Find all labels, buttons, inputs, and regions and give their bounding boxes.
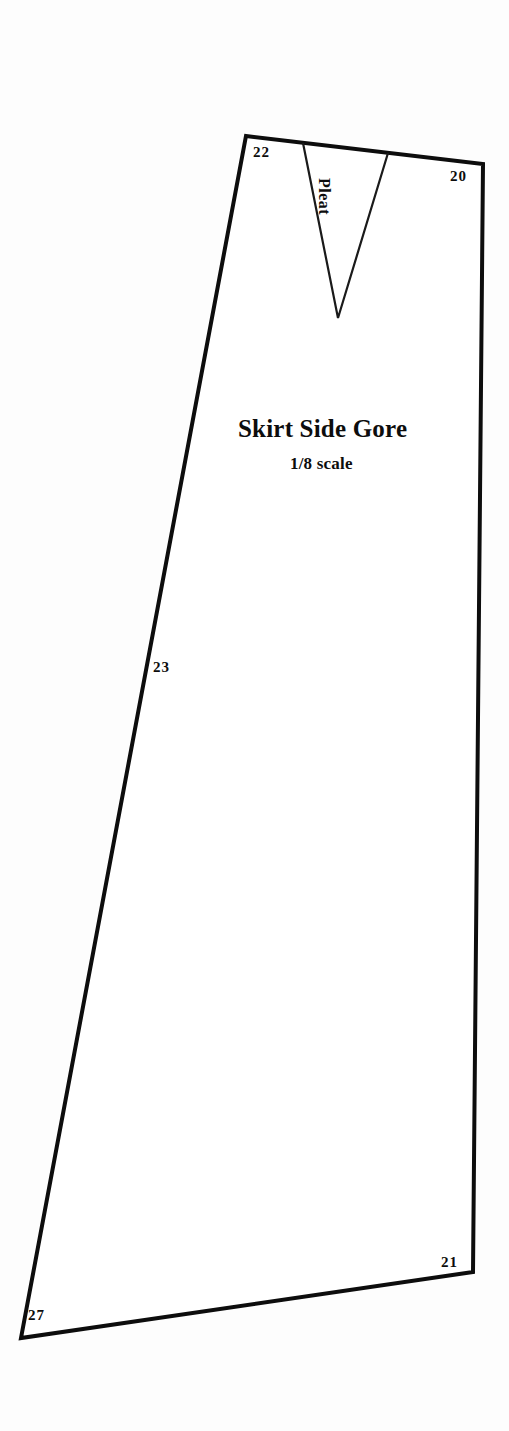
skirt-side-gore-outline	[21, 136, 483, 1338]
pattern-sheet: 22 20 23 21 27 Pleat Skirt Side Gore 1/8…	[0, 0, 509, 1431]
pleat-label: Pleat	[316, 178, 332, 215]
corner-label-bottom-left: 27	[28, 1308, 45, 1323]
corner-label-top-left: 22	[253, 145, 270, 160]
piece-scale-note: 1/8 scale	[150, 441, 500, 472]
piece-title: Skirt Side Gore	[150, 416, 500, 441]
corner-label-bottom-right: 21	[441, 1255, 458, 1270]
piece-caption: Skirt Side Gore 1/8 scale	[150, 416, 500, 472]
pattern-drawing	[0, 0, 509, 1431]
edge-label-left: 23	[153, 660, 170, 675]
corner-label-top-right: 20	[450, 169, 467, 184]
